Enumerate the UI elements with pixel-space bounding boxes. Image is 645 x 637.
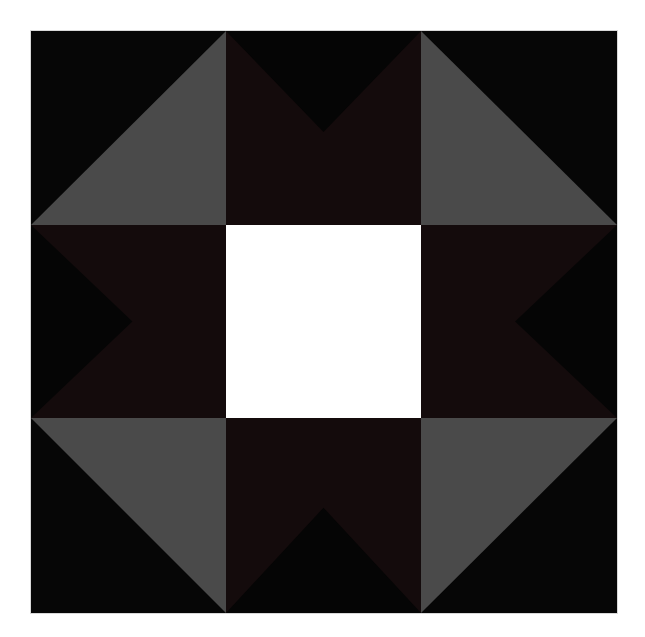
image-canvas [0,0,645,637]
quilt-cell-middle-right [421,225,617,418]
quilt-block [31,31,617,613]
quilt-cell-bottom-left [31,418,226,613]
center-white-square [226,225,421,418]
quilt-cell-top-center [226,31,421,225]
quilt-cell-bottom-center [226,418,421,613]
quilt-cell-middle-left [31,225,226,418]
quilt-cell-top-right [421,31,617,225]
quilt-cell-top-left [31,31,226,225]
quilt-cell-bottom-right [421,418,617,613]
